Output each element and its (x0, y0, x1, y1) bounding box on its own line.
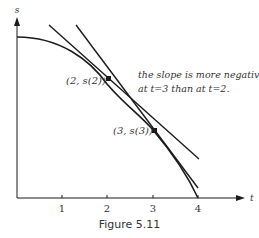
x-tick-label-4: 4 (195, 203, 201, 214)
figure-canvas: 1 2 3 4 s t (2, s(2)) (3, s(3)) the slop… (0, 0, 259, 238)
y-axis-label: s (15, 5, 20, 15)
annotation-line1: the slope is more negative (138, 69, 259, 80)
curve-s (17, 37, 198, 198)
figure-caption: Figure 5.11 (0, 218, 259, 231)
x-axis-label: t (250, 193, 254, 203)
x-tick-label-3: 3 (150, 203, 156, 214)
x-axis-arrow-icon (236, 195, 245, 201)
x-tick-label-2: 2 (104, 203, 110, 214)
y-axis-arrow-icon (14, 17, 20, 26)
point-t2-marker (106, 76, 111, 81)
tangent-line-t3 (76, 25, 198, 188)
x-tick-label-1: 1 (59, 203, 65, 214)
point-t3-label: (3, s(3)) (113, 125, 153, 136)
point-t2-label: (2, s(2)) (66, 75, 106, 86)
annotation-line2: at t=3 than at t=2. (138, 83, 229, 94)
